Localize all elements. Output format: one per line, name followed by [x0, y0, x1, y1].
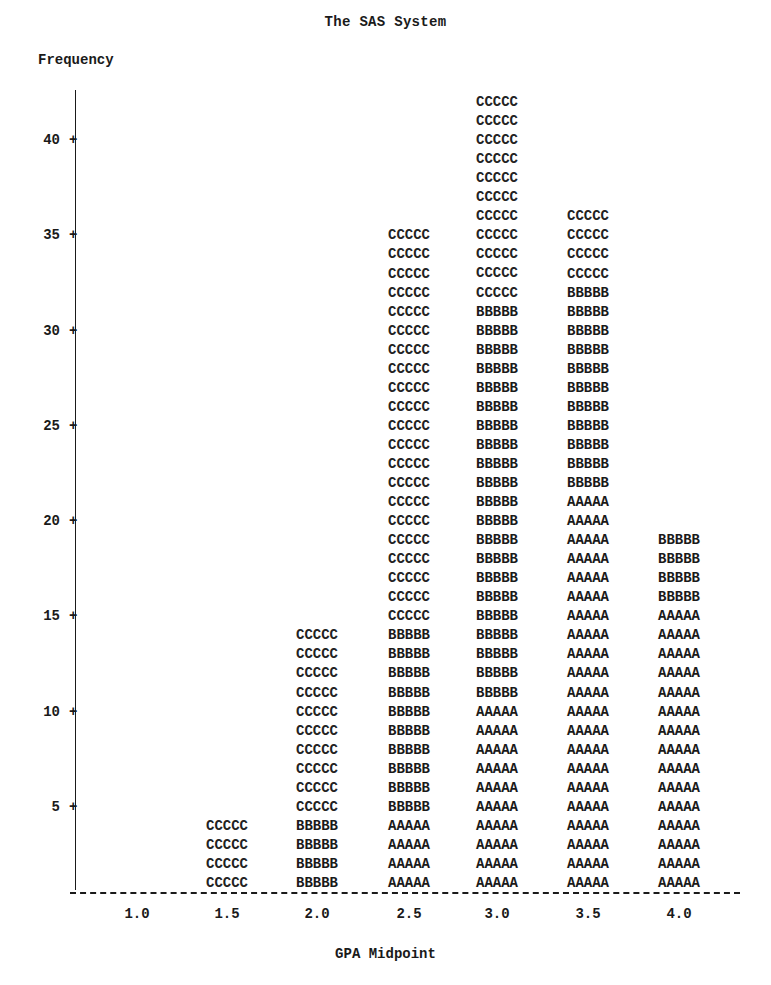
bar-segment-a: AAAAA — [552, 493, 624, 512]
histogram-bar: CCCCCCCCCCCCCCCCCCCC — [191, 817, 263, 893]
bar-segment-b: BBBBB — [552, 417, 624, 436]
bar-segment-a: AAAAA — [373, 817, 445, 836]
bar-segment-b: BBBBB — [461, 303, 533, 322]
bar-segment-c: CCCCC — [281, 722, 353, 741]
bar-segment-b: BBBBB — [461, 360, 533, 379]
bar-segment-b: BBBBB — [281, 836, 353, 855]
y-tick-label: 25 — [43, 417, 60, 436]
bar-segment-c: CCCCC — [461, 112, 533, 131]
bar-segment-c: CCCCC — [373, 398, 445, 417]
bar-segment-a: AAAAA — [552, 741, 624, 760]
bar-segment-b: BBBBB — [552, 284, 624, 303]
bar-segment-a: AAAAA — [552, 512, 624, 531]
y-tick-mark: + — [69, 417, 77, 436]
bar-segment-a: AAAAA — [643, 779, 715, 798]
bar-segment-a: AAAAA — [552, 664, 624, 683]
bar-segment-a: AAAAA — [552, 588, 624, 607]
y-tick-label: 20 — [43, 512, 60, 531]
bar-segment-b: BBBBB — [373, 798, 445, 817]
bar-segment-a: AAAAA — [643, 703, 715, 722]
y-tick: 35+ — [0, 226, 90, 245]
bar-segment-b: BBBBB — [552, 436, 624, 455]
bar-segment-b: BBBBB — [373, 645, 445, 664]
y-tick-mark: + — [69, 512, 77, 531]
x-tick-label: 3.0 — [467, 906, 527, 922]
bar-segment-a: AAAAA — [643, 760, 715, 779]
bar-segment-a: AAAAA — [643, 607, 715, 626]
y-tick-mark: + — [69, 322, 77, 341]
bar-segment-c: CCCCC — [552, 226, 624, 245]
bar-segment-a: AAAAA — [461, 855, 533, 874]
bar-segment-b: BBBBB — [552, 474, 624, 493]
bar-segment-c: CCCCC — [373, 474, 445, 493]
bar-segment-a: AAAAA — [461, 741, 533, 760]
bar-segment-c: CCCCC — [373, 322, 445, 341]
bar-segment-b: BBBBB — [643, 550, 715, 569]
bar-segment-b: BBBBB — [461, 588, 533, 607]
bar-segment-a: AAAAA — [643, 645, 715, 664]
y-tick-label: 40 — [43, 131, 60, 150]
bar-segment-a: AAAAA — [373, 836, 445, 855]
bar-segment-c: CCCCC — [373, 303, 445, 322]
bar-segment-c: CCCCC — [191, 817, 263, 836]
bar-segment-a: AAAAA — [643, 626, 715, 645]
y-tick-mark: + — [69, 607, 77, 626]
bar-segment-a: AAAAA — [461, 798, 533, 817]
bar-segment-a: AAAAA — [461, 760, 533, 779]
bar-segment-a: AAAAA — [552, 626, 624, 645]
y-tick: 25+ — [0, 417, 90, 436]
bar-segment-c: CCCCC — [191, 836, 263, 855]
bar-segment-a: AAAAA — [552, 550, 624, 569]
bar-segment-b: BBBBB — [552, 303, 624, 322]
bar-segment-b: BBBBB — [461, 341, 533, 360]
bar-segment-c: CCCCC — [191, 874, 263, 893]
bar-segment-a: AAAAA — [643, 741, 715, 760]
bar-segment-b: BBBBB — [281, 874, 353, 893]
x-tick-label: 2.5 — [379, 906, 439, 922]
bar-segment-c: CCCCC — [373, 417, 445, 436]
x-tick-label: 2.0 — [287, 906, 347, 922]
bar-segment-b: BBBBB — [373, 664, 445, 683]
bar-segment-a: AAAAA — [373, 855, 445, 874]
y-tick-label: 10 — [43, 703, 60, 722]
y-axis-line — [75, 90, 76, 890]
bar-segment-c: CCCCC — [373, 531, 445, 550]
bar-segment-b: BBBBB — [461, 322, 533, 341]
y-tick-label: 15 — [43, 607, 60, 626]
bar-segment-c: CCCCC — [373, 512, 445, 531]
bar-segment-c: CCCCC — [373, 360, 445, 379]
y-tick: 10+ — [0, 703, 90, 722]
bar-segment-c: CCCCC — [461, 284, 533, 303]
bar-segment-b: BBBBB — [643, 569, 715, 588]
bar-segment-b: BBBBB — [461, 531, 533, 550]
bar-segment-b: BBBBB — [552, 398, 624, 417]
bar-segment-b: BBBBB — [461, 455, 533, 474]
bar-segment-c: CCCCC — [373, 341, 445, 360]
bar-segment-c: CCCCC — [552, 245, 624, 264]
y-axis-label: Frequency — [38, 52, 114, 68]
bar-segment-a: AAAAA — [461, 722, 533, 741]
bar-segment-a: AAAAA — [552, 703, 624, 722]
bar-segment-b: BBBBB — [461, 436, 533, 455]
bar-segment-c: CCCCC — [552, 265, 624, 284]
bar-segment-b: BBBBB — [461, 512, 533, 531]
x-tick-label: 1.0 — [107, 906, 167, 922]
bar-segment-c: CCCCC — [281, 626, 353, 645]
bar-segment-b: BBBBB — [461, 684, 533, 703]
bar-segment-a: AAAAA — [643, 798, 715, 817]
y-tick: 5+ — [0, 798, 90, 817]
bar-segment-b: BBBBB — [643, 588, 715, 607]
bar-segment-b: BBBBB — [552, 322, 624, 341]
bar-segment-c: CCCCC — [373, 245, 445, 264]
bar-segment-a: AAAAA — [373, 874, 445, 893]
bar-segment-a: AAAAA — [552, 874, 624, 893]
bar-segment-c: CCCCC — [191, 855, 263, 874]
histogram-bar: BBBBBBBBBBBBBBBBBBBBCCCCCCCCCCCCCCCCCCCC… — [281, 626, 353, 893]
bar-segment-a: AAAAA — [643, 855, 715, 874]
histogram-bar: AAAAAAAAAAAAAAAAAAAAAAAAAAAAAAAAAAAAAAAA… — [461, 93, 533, 893]
bar-segment-c: CCCCC — [373, 455, 445, 474]
bar-segment-c: CCCCC — [461, 169, 533, 188]
bar-segment-b: BBBBB — [461, 398, 533, 417]
bar-segment-b: BBBBB — [281, 855, 353, 874]
y-tick: 40+ — [0, 131, 90, 150]
